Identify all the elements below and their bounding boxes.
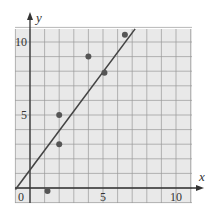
data-point (56, 112, 62, 118)
x-axis-arrow-icon (196, 185, 204, 191)
data-point (85, 54, 91, 60)
y-axis-arrow-icon (27, 12, 33, 20)
x-tick-label: 0 (18, 190, 24, 204)
scatter-chart: 0510510 x y (0, 0, 217, 216)
x-axis-label: x (198, 169, 205, 184)
x-tick-label: 5 (100, 190, 106, 204)
y-tick-label: 5 (21, 108, 27, 122)
data-point (56, 141, 62, 147)
data-point (45, 188, 51, 194)
plot-background (15, 29, 192, 203)
y-axis-label: y (34, 10, 42, 25)
y-tick-label: 10 (15, 35, 27, 49)
data-point (101, 70, 107, 76)
x-tick-label: 10 (170, 190, 182, 204)
data-point (122, 32, 128, 38)
